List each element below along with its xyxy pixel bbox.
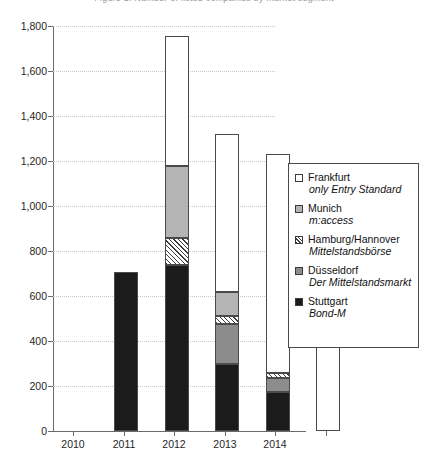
y-axis-label: 0 <box>3 425 47 437</box>
x-axis-tick <box>326 431 327 436</box>
bar-segment-stuttgart <box>215 364 239 432</box>
x-axis-label: 2012 <box>162 438 185 450</box>
bar-segment-dusseldorf <box>215 324 239 363</box>
bar-segment-frankfurt <box>165 36 189 165</box>
x-axis-label: 2010 <box>61 438 84 450</box>
legend-sublabel: m:access <box>309 215 418 226</box>
legend-sublabel: only Entry Standard <box>309 184 418 195</box>
x-axis-tick <box>225 431 226 436</box>
legend-item-hamburg[interactable]: Hamburg/HannoverMittelstandsbörse <box>295 234 418 257</box>
bar-segment-hamburg <box>215 316 239 324</box>
bar-segment-munich <box>165 166 189 238</box>
y-axis-tick <box>48 116 53 117</box>
x-axis-tick <box>174 431 175 436</box>
bar-segment-hamburg <box>266 373 290 379</box>
y-axis-label: 600 <box>3 290 47 302</box>
legend-item-stuttgart[interactable]: StuttgartBond-M <box>295 296 418 319</box>
legend-item-dusseldorf[interactable]: DüsseldorfDer Mittelstandsmarkt <box>295 265 418 288</box>
legend-label: Munich <box>308 203 342 214</box>
bar-segment-dusseldorf <box>266 378 290 392</box>
bar-segment-hamburg <box>165 238 189 265</box>
bar-2010 <box>114 272 138 431</box>
x-axis-label: 2014 <box>263 438 286 450</box>
chart-legend: Frankfurtonly Entry StandardMunichm:acce… <box>288 163 419 348</box>
y-axis-tick <box>48 206 53 207</box>
x-axis-label: 2013 <box>213 438 236 450</box>
legend-label: Düsseldorf <box>308 265 358 276</box>
y-axis-tick <box>48 26 53 27</box>
legend-label: Frankfurt <box>308 172 350 183</box>
legend-swatch-hamburg-icon <box>295 236 303 244</box>
y-axis-tick <box>48 251 53 252</box>
legend-swatch-stuttgart-icon <box>295 298 303 306</box>
legend-swatch-munich-icon <box>295 205 303 213</box>
y-axis-tick <box>48 431 53 432</box>
x-axis-tick <box>124 431 125 436</box>
bar-2012 <box>215 134 239 431</box>
legend-item-frankfurt[interactable]: Frankfurtonly Entry Standard <box>295 172 418 195</box>
legend-sublabel: Mittelstandsbörse <box>309 246 418 257</box>
bar-segment-stuttgart <box>165 265 189 432</box>
y-axis-tick <box>48 341 53 342</box>
plot-area <box>53 26 275 431</box>
bar-segment-frankfurt <box>215 134 239 292</box>
y-axis-tick <box>48 161 53 162</box>
y-axis-label: 1,800 <box>3 20 47 32</box>
y-axis-tick <box>48 296 53 297</box>
bar-segment-munich <box>215 292 239 316</box>
y-axis-label: 1,000 <box>3 200 47 212</box>
legend-label: Hamburg/Hannover <box>308 234 400 245</box>
bar-2011 <box>165 36 189 431</box>
gridline <box>53 26 275 27</box>
bar-segment-stuttgart <box>266 392 290 431</box>
y-axis-label: 1,600 <box>3 65 47 77</box>
legend-label: Stuttgart <box>308 296 348 307</box>
bar-segment-stuttgart <box>114 272 138 431</box>
bar-segment-frankfurt <box>266 154 290 372</box>
x-axis-label: 2011 <box>113 438 136 450</box>
x-axis-tick <box>73 431 74 436</box>
y-axis-label: 800 <box>3 245 47 257</box>
y-axis-label: 200 <box>3 380 47 392</box>
x-axis-line <box>53 431 306 432</box>
x-axis-tick <box>275 431 276 436</box>
bar-chart: Figure 1: Number of listed companies by … <box>0 0 428 467</box>
bar-2013 <box>266 154 290 431</box>
chart-title: Figure 1: Number of listed companies by … <box>0 0 428 3</box>
legend-swatch-frankfurt-icon <box>295 174 303 182</box>
y-axis-tick <box>48 71 53 72</box>
legend-sublabel: Der Mittelstandsmarkt <box>309 277 418 288</box>
legend-sublabel: Bond-M <box>309 308 418 319</box>
legend-swatch-dusseldorf-icon <box>295 267 303 275</box>
y-axis-label: 1,400 <box>3 110 47 122</box>
y-axis-label: 1,200 <box>3 155 47 167</box>
y-axis-label: 400 <box>3 335 47 347</box>
y-axis-tick <box>48 386 53 387</box>
legend-item-munich[interactable]: Munichm:access <box>295 203 418 226</box>
